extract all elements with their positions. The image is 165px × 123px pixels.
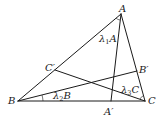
- label-lambda3-c: λ3C: [120, 84, 139, 97]
- label-a: A: [118, 3, 126, 14]
- angle-arc-b: [42, 95, 43, 101]
- label-a-prime: A′: [103, 106, 114, 117]
- label-c-prime: C′: [45, 62, 56, 73]
- triangle-diagram: A B C A′ B′ C′ λ1A λ2B λ3C: [0, 0, 165, 123]
- label-lambda1-a: λ1A: [98, 33, 117, 46]
- angle-arc-a: [116, 18, 120, 20]
- cevian-aa-prime: [111, 14, 121, 101]
- label-c: C: [148, 95, 156, 106]
- label-b-prime: B′: [138, 64, 149, 75]
- label-b: B: [7, 95, 15, 106]
- angle-arc-c: [140, 96, 143, 99]
